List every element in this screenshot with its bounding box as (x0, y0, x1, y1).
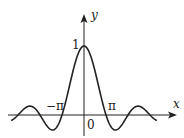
x-tick-neg-pi: −π (46, 100, 64, 112)
y-axis-label: y (91, 9, 98, 21)
y-tick-1: 1 (72, 39, 80, 51)
x-axis-label: x (173, 98, 180, 110)
x-tick-pi: π (108, 100, 116, 112)
origin-label: 0 (87, 119, 95, 131)
